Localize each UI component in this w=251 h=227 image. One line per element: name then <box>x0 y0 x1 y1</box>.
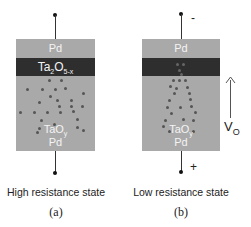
bottom-polarity-sign: + <box>190 160 197 174</box>
caption-a: High resistance state <box>0 186 112 198</box>
device-stack-b: Pd <box>142 39 220 151</box>
sublabel-b: (b) <box>126 205 236 220</box>
bottom-electrode-label-a: Pd <box>16 136 95 148</box>
top-electrode-label-b: Pd <box>142 42 220 54</box>
top-polarity-sign: - <box>191 11 195 25</box>
bottom-wire-a <box>55 151 56 172</box>
arrow-shaft <box>230 80 231 118</box>
bottom-terminal-b <box>179 170 183 174</box>
top-wire-b <box>181 14 182 39</box>
oxide-layer-label-a: Ta2O5-x <box>16 60 95 75</box>
arrow-up-icon <box>225 76 236 84</box>
oxide-layer-a: Ta2O5-x <box>16 58 95 76</box>
top-wire-a <box>55 15 56 39</box>
caption-b: Low resistance state <box>126 186 236 198</box>
bottom-electrode-label-b: Pd <box>142 136 220 148</box>
bottom-terminal-a <box>53 171 57 175</box>
sublabel-a: (a) <box>0 205 112 220</box>
device-stack-a: Pd Ta2O5-x <box>16 39 95 151</box>
arrow-label: VO <box>224 119 240 137</box>
bottom-wire-b <box>181 151 182 172</box>
top-electrode-label-a: Pd <box>16 42 95 54</box>
